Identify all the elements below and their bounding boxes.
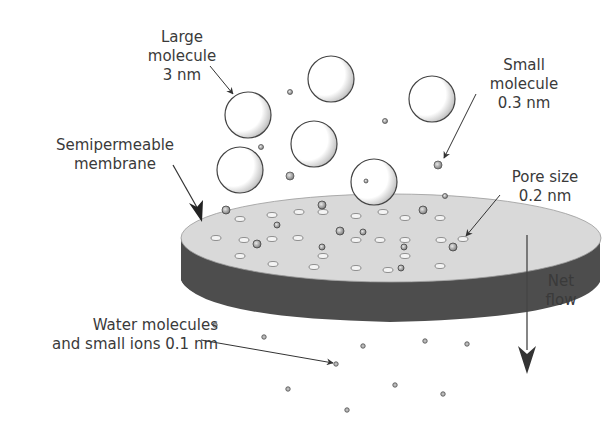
water-molecules xyxy=(213,323,469,412)
water-molecule-arrow xyxy=(201,340,333,363)
large-molecule-label: Large molecule 3 nm xyxy=(136,28,228,85)
pore-size-label: Pore size 0.2 nm xyxy=(500,168,590,206)
net-flow-label: Net flow xyxy=(536,272,586,310)
small-molecule-label: Small molecule 0.3 nm xyxy=(478,56,570,113)
large-molecule xyxy=(291,121,337,167)
large-molecule xyxy=(308,56,354,102)
membrane-label: Semipermeable membrane xyxy=(40,136,190,174)
large-molecule xyxy=(225,92,271,138)
large-molecule xyxy=(217,147,263,193)
large-molecule xyxy=(409,76,455,122)
large-molecule xyxy=(351,159,397,205)
water-molecules-label: Water molecules and small ions 0.1 nm xyxy=(20,316,218,354)
large-molecules xyxy=(217,56,455,205)
